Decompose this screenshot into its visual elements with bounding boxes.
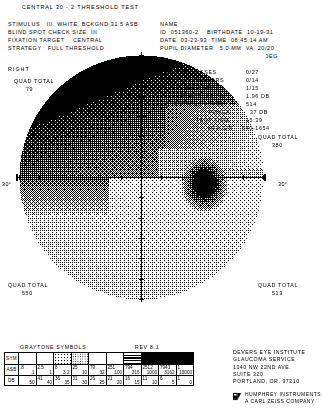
humphrey-logo-icon	[233, 392, 242, 401]
test-time-label: TEST TIME	[196, 117, 230, 124]
degree-label-right: 30°	[278, 181, 287, 187]
graytone-legend: SYM ASB .8.12.5183.225107932251100794316…	[4, 352, 194, 386]
legend-swatch-9	[176, 353, 194, 365]
legend-revision: REV 8.1	[135, 344, 159, 350]
legend-asb-row: ASB .8.12.5183.2251079322511007943162512…	[5, 365, 194, 376]
quad-total-lower-left-value: 550	[22, 290, 33, 297]
legend-db-9: 10	[176, 376, 194, 386]
quad-total-upper-left-label: QUAD TOTAL	[14, 78, 54, 85]
quad-total-lower-left-label: QUAD TOTAL	[8, 282, 48, 289]
legend-swatch-3	[71, 353, 89, 365]
legend-symbol-row: SYM	[5, 353, 194, 365]
name-label: NAME	[160, 21, 178, 28]
visual-field-greyscale-map	[16, 52, 266, 302]
horizontal-meridian	[16, 177, 266, 178]
date-time-line: DATE 03-23-93 TIME 08:45:14 AM	[160, 37, 268, 44]
legend-swatch-1	[36, 353, 54, 365]
quad-total-upper-right-label: QUAD TOTAL	[258, 134, 298, 141]
degree-label-left: 30°	[2, 181, 11, 187]
false-pos-errors-label: FALSE POS ERRORS	[160, 77, 224, 84]
quad-total-upper-right-value: 380	[272, 142, 283, 149]
pupil-va-line: PUPIL DIAMETER 5.0 MM VA 20/20	[160, 45, 274, 52]
legend-asb-7: 25121000	[141, 365, 159, 376]
legend-db-5: 2120	[106, 376, 124, 386]
questions-asked-label: QUESTIONS ASKED	[165, 101, 226, 108]
false-neg-errors-value: 1/15	[246, 85, 259, 92]
legend-row-label-asb: ASB	[5, 365, 19, 376]
fixation-losses-value: 0/27	[246, 69, 259, 76]
legend-asb-8: 79433162	[159, 365, 177, 376]
legend-db-0: 50	[19, 376, 37, 386]
false-neg-errors-label: FALSE NEG ERRORS	[160, 85, 224, 92]
test-time-value: 15:39	[246, 117, 263, 124]
false-pos-errors-value: 0/14	[246, 77, 259, 84]
fixation-losses-label: FIXATION LOSSES	[160, 69, 217, 76]
legend-asb-2: 83.2	[54, 365, 72, 376]
stimulus-line: STIMULUS III, WHITE, BCKGND 31.5 ASB	[8, 21, 138, 28]
clinic-address: DEVERS EYE INSTITUTE GLAUCOMA SERVICE 10…	[233, 349, 305, 385]
legend-asb-4: 7932	[89, 365, 107, 376]
hfa-serial-value: 640-1654	[242, 125, 270, 132]
eye-label: RIGHT	[8, 66, 30, 73]
legend-swatch-0	[19, 353, 37, 365]
legend-swatch-6	[124, 353, 142, 365]
legend-swatch-2	[54, 353, 72, 365]
legend-db-2: 3635	[54, 376, 72, 386]
fovea-label: FOVEA:	[209, 109, 233, 116]
quad-total-lower-right-value: 513	[272, 290, 283, 297]
legend-swatch-5	[106, 353, 124, 365]
legend-row-label-sym: SYM	[5, 353, 19, 365]
legend-db-row: DB 5041403635313026252120161511106510	[5, 376, 194, 386]
legend-asb-0: .8.1	[19, 365, 37, 376]
legend-db-8: 65	[159, 376, 177, 386]
legend-db-7: 1110	[141, 376, 159, 386]
legend-db-6: 1615	[124, 376, 142, 386]
legend-asb-5: 251100	[106, 365, 124, 376]
legend-swatch-7	[141, 353, 159, 365]
legend-asb-9: 110000	[176, 365, 194, 376]
report-page: CENTRAL 30 - 2 THRESHOLD TEST STIMULUS I…	[0, 0, 322, 409]
hfa-serial-label: HFA S/N	[208, 125, 233, 132]
fluctuation-label: FLUCTUATION	[181, 93, 225, 100]
strategy-line: STRATEGY FULL THRESHOLD	[8, 45, 104, 52]
legend-swatch-4	[89, 353, 107, 365]
fovea-value: 37 DB	[250, 109, 268, 116]
legend-row-label-db: DB	[5, 376, 19, 386]
graytone-legend-table: SYM ASB .8.12.5183.225107932251100794316…	[4, 352, 194, 386]
page-title: CENTRAL 30 - 2 THRESHOLD TEST	[22, 4, 139, 11]
legend-db-3: 3130	[71, 376, 89, 386]
blind-spot-line: BLIND SPOT CHECK SIZE III	[8, 29, 97, 36]
id-birthdate-line: ID 051360-2 BIRTHDATE 10-19-31	[160, 29, 273, 36]
brand-text: HUMPHREY INSTRUMENTS A CARL ZEISS COMPAN…	[245, 391, 321, 404]
questions-asked-value: 514	[246, 101, 257, 108]
fixation-target-line: FIXATION TARGET CENTRAL	[8, 37, 103, 44]
legend-asb-6: 794316	[124, 365, 142, 376]
fluctuation-value: 1.96 DB	[246, 93, 270, 100]
legend-asb-3: 2510	[71, 365, 89, 376]
legend-asb-1: 2.51	[36, 365, 54, 376]
legend-title: GRAYTONE SYMBOLS	[20, 344, 86, 350]
quad-total-upper-left-value: 79	[26, 86, 33, 93]
legend-db-1: 4140	[36, 376, 54, 386]
legend-db-4: 2625	[89, 376, 107, 386]
quad-total-lower-right-label: QUAD TOTAL	[258, 282, 298, 289]
legend-swatch-8	[159, 353, 177, 365]
